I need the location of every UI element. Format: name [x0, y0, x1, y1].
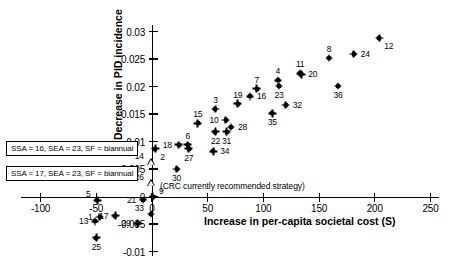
data-point-marker [141, 197, 146, 202]
x-axis-line [21, 197, 440, 198]
data-point-marker [351, 52, 356, 57]
data-point-label: 20 [308, 69, 317, 79]
y-tick-mark [149, 113, 158, 114]
data-point-label: 19 [233, 90, 242, 100]
data-point-marker [235, 101, 240, 106]
triangle-inner [148, 160, 154, 165]
y-axis-title: Decrease in PID incidence [112, 9, 124, 140]
data-point-marker [174, 167, 179, 172]
data-point-marker [135, 221, 140, 226]
legend-box-1: SSA = 16, SEA = 23, SF = biannual [6, 141, 138, 156]
x-tick-mark [263, 193, 264, 202]
data-point-marker [377, 36, 382, 41]
x-tick-mark [207, 193, 208, 202]
data-point-label: 22 [211, 136, 220, 146]
data-point-marker [151, 194, 156, 199]
x-tick-label: 250 [422, 203, 438, 214]
data-point-label: 28 [238, 122, 247, 132]
data-point-marker [213, 129, 218, 134]
data-point-marker [229, 125, 234, 130]
data-point-label: 18 [163, 140, 172, 150]
data-point-marker [153, 146, 158, 151]
y-tick-mark [149, 251, 158, 252]
data-point-label: 34 [220, 146, 229, 156]
data-point-label: 15 [193, 109, 202, 119]
data-point-label: 5 [86, 189, 91, 199]
y-tick-mark [149, 223, 158, 224]
data-point-label: 17 [99, 211, 108, 221]
x-tick-mark [40, 193, 41, 202]
data-point-marker [336, 83, 341, 88]
y-tick-mark [149, 58, 158, 59]
data-point-label: 7 [254, 75, 259, 85]
data-point-label: 4 [276, 66, 281, 76]
x-tick-mark [319, 193, 320, 202]
data-point-label: 31 [222, 136, 231, 146]
data-point-label: 16 [257, 91, 266, 101]
data-point-marker-triangle [147, 158, 155, 165]
data-point-label: 2 [160, 152, 165, 162]
data-point-label: 32 [293, 100, 302, 110]
data-point-marker [276, 83, 281, 88]
data-point-marker [195, 121, 200, 126]
crc-strategy-annotation: (CRC currently recommended strategy) [160, 181, 305, 191]
legend-box-2: SSA = 17, SEA = 23, SF = biannual [6, 166, 138, 181]
x-tick-mark [374, 193, 375, 202]
y-tick-mark [149, 86, 158, 87]
data-point-marker [186, 146, 191, 151]
y-tick-label: 0.025 [121, 54, 145, 65]
data-point-marker [95, 198, 100, 203]
data-point-label: 23 [274, 90, 283, 100]
x-axis-title: Increase in per-capita societal cost (S) [204, 215, 395, 227]
data-point-label: 3 [213, 95, 218, 105]
data-point-marker [148, 212, 153, 217]
y-tick-mark [149, 31, 158, 32]
y-tick-mark [149, 141, 158, 142]
data-point-marker [270, 111, 275, 116]
triangle-inner [148, 181, 154, 186]
data-point-marker [176, 142, 181, 147]
data-point-label: 12 [384, 41, 393, 51]
x-tick-label: -100 [31, 203, 50, 214]
scatter-plot-figure: Decrease in PID incidence Increase in pe… [0, 0, 453, 266]
y-tick-mark [149, 168, 158, 169]
data-point-marker [327, 55, 332, 60]
data-point-marker [213, 107, 218, 112]
y-tick-label: -0.01 [123, 246, 145, 257]
x-tick-label: 50 [202, 203, 213, 214]
x-tick-mark [430, 193, 431, 202]
data-point-marker [283, 103, 288, 108]
data-point-label: 6 [185, 131, 190, 141]
y-tick-label: 0.015 [121, 109, 145, 120]
data-point-label: 33 [135, 203, 144, 213]
data-point-marker [224, 129, 229, 134]
data-point-label: 13 [79, 216, 88, 226]
data-point-label: 29 [121, 218, 130, 228]
data-point-marker [94, 235, 99, 240]
data-point-label: 10 [209, 115, 218, 125]
data-point-label: 36 [334, 90, 343, 100]
data-point-label: 24 [361, 49, 370, 59]
x-tick-label: 150 [311, 203, 327, 214]
x-tick-label: 200 [367, 203, 383, 214]
data-point-marker [113, 213, 118, 218]
data-point-marker-triangle [147, 179, 155, 186]
data-point-label: 11 [296, 59, 304, 69]
data-point-label: 35 [268, 117, 277, 127]
y-tick-label: 0.02 [126, 81, 145, 92]
x-tick-label: 100 [255, 203, 271, 214]
y-tick-label: 0.03 [126, 26, 145, 37]
data-point-marker [248, 94, 253, 99]
data-point-marker [93, 219, 98, 224]
data-point-label: 27 [184, 153, 193, 163]
data-point-label: 8 [327, 44, 332, 54]
data-point-label: 25 [92, 242, 101, 252]
data-point-marker [223, 118, 228, 123]
data-point-marker [299, 72, 304, 77]
data-point-marker [211, 149, 216, 154]
